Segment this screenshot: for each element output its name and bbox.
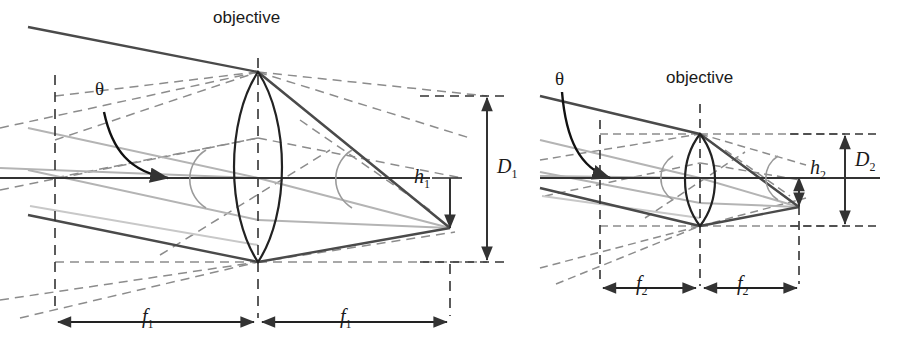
dashed-line: [55, 72, 258, 96]
refracted-ray-lower: [700, 207, 799, 226]
h2-symbol: h: [810, 156, 820, 178]
D1-subscript: 1: [511, 167, 517, 181]
dashed-line: [556, 226, 700, 284]
theta-label-right: θ: [555, 68, 564, 90]
f2-left-subscript: 2: [642, 284, 648, 298]
dashed-line: [0, 262, 258, 300]
objective-label-left: objective: [213, 8, 280, 28]
dashed-line: [55, 72, 258, 140]
ray-diagram-canvas: [0, 0, 907, 348]
dashed-line: [258, 72, 470, 138]
f2-right-subscript: 2: [743, 284, 749, 298]
dashed-line: [645, 152, 745, 218]
h2-subscript: 2: [820, 168, 826, 182]
theta-leader-left: [104, 112, 168, 178]
dashed-line: [700, 134, 806, 165]
dashed-line: [160, 150, 330, 255]
f1-label-left: f1: [142, 305, 154, 332]
construction-lines-left: [0, 72, 487, 318]
D2-label: D2: [855, 148, 875, 175]
dashed-line: [258, 138, 462, 178]
light-ray-bundle-left: [0, 72, 450, 245]
D2-symbol: D: [855, 148, 869, 170]
objective-label-right: objective: [666, 68, 733, 88]
dashed-line: [545, 163, 700, 196]
panel-right-group: [540, 92, 880, 288]
h1-label: h1: [414, 165, 430, 192]
refracted-ray-lower: [258, 228, 450, 262]
light-ray-bundle-right: [540, 134, 799, 218]
optics-figure: objective θ h1 D1 f1 f1 objective θ h2 D…: [0, 0, 907, 348]
dark-ray-bundle-right: [540, 96, 799, 226]
dark-ray-bundle-left: [28, 27, 450, 262]
f1-left-subscript: 1: [148, 317, 154, 331]
light-ray: [540, 140, 700, 178]
theta-label-left: θ: [95, 78, 104, 100]
D2-subscript: 2: [869, 160, 875, 174]
h2-label: h2: [810, 156, 826, 183]
D1-symbol: D: [497, 155, 511, 177]
theta-leader-right: [562, 92, 610, 178]
f1-right-subscript: 1: [346, 317, 352, 331]
marginal-ray-upper: [28, 27, 258, 72]
dashed-line: [258, 72, 487, 96]
f2-label-left: f2: [636, 272, 648, 299]
f2-label-right: f2: [737, 272, 749, 299]
h1-subscript: 1: [424, 177, 430, 191]
dashed-line: [540, 226, 700, 268]
dashed-line: [540, 134, 700, 160]
h1-symbol: h: [414, 165, 424, 187]
panel-left-group: [0, 27, 508, 322]
marginal-ray-lower: [540, 188, 700, 226]
dashed-line: [0, 72, 258, 128]
f1-label-right: f1: [340, 305, 352, 332]
D1-label: D1: [497, 155, 517, 182]
